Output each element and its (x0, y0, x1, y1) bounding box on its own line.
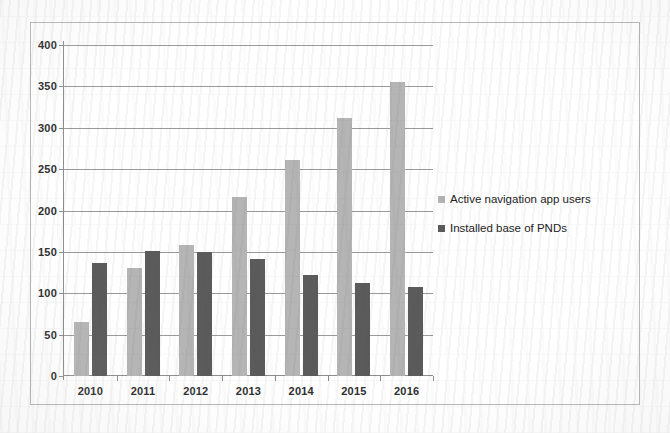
bar (145, 251, 160, 376)
y-axis-tick-label: 200 (38, 205, 57, 217)
x-tick-mark (169, 376, 170, 381)
bar-group: 2011 (117, 45, 170, 376)
bar (337, 118, 352, 376)
x-axis-tick-label: 2010 (60, 385, 120, 397)
bar (92, 263, 107, 376)
y-axis-tick-label: 150 (38, 246, 57, 258)
bar-group: 2014 (275, 45, 328, 376)
chart-frame: 050100150200250300350400 201020112012201… (30, 22, 640, 405)
y-axis-tick-label: 350 (38, 80, 57, 92)
bar-group: 2016 (380, 45, 433, 376)
bar (127, 268, 142, 376)
bar (285, 160, 300, 376)
x-axis-tick-label: 2016 (377, 385, 437, 397)
x-tick-mark (380, 376, 381, 381)
x-axis-tick-label: 2011 (113, 385, 173, 397)
legend-item-label: Installed base of PNDs (450, 222, 567, 234)
bar (179, 245, 194, 376)
chart-legend: Active navigation app usersInstalled bas… (438, 193, 638, 251)
y-axis-tick-label: 0 (51, 370, 57, 382)
bar-group: 2013 (222, 45, 275, 376)
bar-group: 2015 (328, 45, 381, 376)
bar (355, 283, 370, 377)
legend-item[interactable]: Installed base of PNDs (438, 222, 638, 234)
plot-area: 050100150200250300350400 201020112012201… (64, 45, 433, 376)
x-axis-tick-label: 2013 (219, 385, 279, 397)
bar (232, 197, 247, 376)
x-tick-mark (222, 376, 223, 381)
y-axis-tick-label: 50 (44, 329, 57, 341)
bar (250, 259, 265, 376)
bar (74, 322, 89, 376)
y-axis-tick-label: 100 (38, 287, 57, 299)
x-tick-mark (433, 376, 434, 381)
x-tick-mark (328, 376, 329, 381)
bar-group: 2010 (64, 45, 117, 376)
bar (303, 275, 318, 376)
x-axis-tick-label: 2014 (271, 385, 331, 397)
legend-swatch-icon (438, 225, 445, 232)
legend-item[interactable]: Active navigation app users (438, 193, 638, 205)
y-tick-mark (59, 376, 64, 377)
y-axis-tick-label: 250 (38, 163, 57, 175)
y-axis-tick-label: 400 (38, 39, 57, 51)
legend-swatch-icon (438, 196, 445, 203)
bar (197, 252, 212, 376)
bar-group: 2012 (169, 45, 222, 376)
x-tick-mark (117, 376, 118, 381)
x-tick-mark (275, 376, 276, 381)
y-axis-tick-label: 300 (38, 122, 57, 134)
legend-item-label: Active navigation app users (450, 193, 591, 205)
x-axis-tick-label: 2012 (166, 385, 226, 397)
x-axis-tick-label: 2015 (324, 385, 384, 397)
bar (408, 287, 423, 376)
bar (390, 82, 405, 376)
